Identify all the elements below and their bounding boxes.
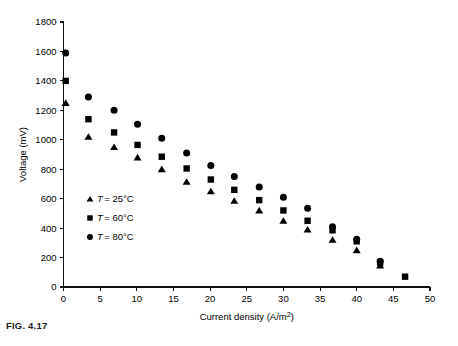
- legend-label: T= 60°C: [97, 212, 134, 223]
- data-point: [134, 154, 142, 161]
- data-point: [183, 165, 189, 171]
- data-point: [158, 135, 165, 142]
- data-point: [279, 217, 287, 224]
- x-axis-tick-label: 15: [168, 293, 179, 304]
- x-axis-tick-label: 10: [132, 293, 143, 304]
- series-1-points: [62, 99, 384, 268]
- legend-label: T= 80°C: [97, 231, 134, 242]
- data-point: [353, 247, 361, 254]
- data-point: [208, 176, 214, 182]
- data-point: [207, 188, 215, 195]
- y-axis-tick-label: 400: [41, 223, 57, 234]
- x-axis-tick-label: 25: [241, 293, 252, 304]
- data-point: [207, 162, 214, 169]
- x-axis-title: Current density (A/m2): [200, 311, 294, 323]
- data-point: [304, 218, 310, 224]
- legend-marker-square: [87, 215, 92, 220]
- axes-group: [64, 22, 431, 287]
- y-axis-tick-label: 1200: [35, 105, 56, 116]
- data-point: [85, 94, 92, 101]
- figure-container: 0200400600800100012001400160018000510152…: [0, 0, 458, 346]
- data-point: [255, 207, 263, 214]
- legend-marker-circle: [87, 234, 93, 240]
- chart-legend: T= 25°CT= 60°CT= 80°C: [87, 193, 134, 242]
- data-point: [134, 142, 140, 148]
- ticks-group: [60, 22, 431, 291]
- data-point: [158, 166, 166, 173]
- x-axis-tick-label: 50: [425, 293, 436, 304]
- data-point: [402, 273, 408, 279]
- y-axis-tick-label: 200: [41, 252, 57, 263]
- data-point: [159, 154, 165, 160]
- data-point: [231, 187, 237, 193]
- data-point: [256, 197, 262, 203]
- data-point: [304, 226, 312, 233]
- data-point: [231, 173, 238, 180]
- y-axis-tick-label: 1600: [35, 46, 56, 57]
- data-point: [280, 207, 286, 213]
- data-point: [183, 178, 191, 185]
- x-axis-tick-label: 0: [61, 293, 66, 304]
- data-point: [230, 197, 238, 204]
- data-point: [183, 150, 190, 157]
- legend-marker-triangle: [87, 196, 94, 202]
- data-point: [256, 183, 263, 190]
- figure-caption: FIG. 4.17: [6, 320, 47, 331]
- data-point: [134, 121, 141, 128]
- tick-labels-group: 0200400600800100012001400160018000510152…: [35, 16, 435, 304]
- y-axis-title: Voltage (mV): [17, 127, 28, 182]
- chart-canvas: 0200400600800100012001400160018000510152…: [0, 0, 458, 346]
- data-point: [62, 78, 68, 84]
- legend-label: T= 25°C: [97, 193, 134, 204]
- y-axis-tick-label: 0: [51, 281, 56, 292]
- y-axis-tick-label: 1400: [35, 75, 56, 86]
- data-point: [62, 99, 70, 106]
- data-point: [329, 236, 337, 243]
- y-axis-tick-label: 600: [41, 193, 57, 204]
- data-point: [62, 49, 69, 56]
- x-axis-tick-label: 35: [315, 293, 326, 304]
- data-point: [84, 133, 92, 140]
- x-axis-tick-label: 20: [205, 293, 216, 304]
- y-axis-tick-label: 1000: [35, 134, 56, 145]
- x-axis-tick-label: 45: [388, 293, 399, 304]
- data-point: [377, 258, 384, 265]
- y-axis-tick-label: 800: [41, 164, 57, 175]
- data-point: [110, 144, 118, 151]
- data-point: [353, 236, 360, 243]
- data-points-group: [62, 49, 409, 279]
- data-point: [304, 205, 311, 212]
- axis-titles-group: Current density (A/m2)Voltage (mV): [17, 127, 294, 322]
- x-axis-tick-label: 5: [98, 293, 103, 304]
- data-point: [329, 223, 336, 230]
- x-axis-tick-label: 30: [278, 293, 289, 304]
- data-point: [111, 107, 118, 114]
- data-point: [280, 194, 287, 201]
- y-axis-tick-label: 1800: [35, 16, 56, 27]
- data-point: [85, 116, 91, 122]
- data-point: [111, 129, 117, 135]
- x-axis-tick-label: 40: [351, 293, 362, 304]
